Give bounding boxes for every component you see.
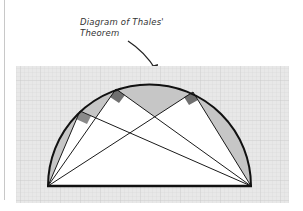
caption-arrow: [128, 41, 156, 70]
thales-diagram: [0, 0, 303, 211]
